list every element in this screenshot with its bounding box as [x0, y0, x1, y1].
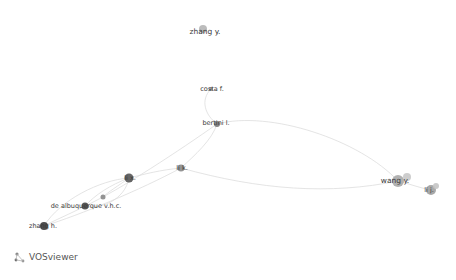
node-label[interactable]: zhang h. [29, 223, 57, 230]
edge [181, 124, 217, 168]
node-label[interactable]: li j. [424, 187, 434, 194]
node-label[interactable]: costa f. [200, 86, 223, 93]
node-label[interactable]: li k. [176, 165, 188, 172]
node-label[interactable]: de albuquerque v.h.c. [51, 203, 122, 210]
edge [181, 168, 398, 189]
edge [85, 124, 217, 206]
vosviewer-logo: VOSviewer [14, 251, 78, 263]
app-name: VOSviewer [29, 252, 78, 262]
network-canvas[interactable] [0, 0, 456, 280]
node-label[interactable]: zhang y. [190, 28, 221, 36]
edge [217, 121, 398, 181]
edge [44, 168, 181, 226]
node-node-small[interactable] [101, 195, 106, 200]
node-label[interactable]: wang y. [381, 177, 409, 185]
nodes-layer [40, 25, 439, 230]
edge [129, 168, 181, 178]
vosviewer-logo-icon [14, 251, 26, 263]
node-label[interactable]: li x. [124, 175, 136, 182]
node-label[interactable]: bertini l. [202, 120, 229, 127]
node-li-j2[interactable] [433, 183, 439, 189]
